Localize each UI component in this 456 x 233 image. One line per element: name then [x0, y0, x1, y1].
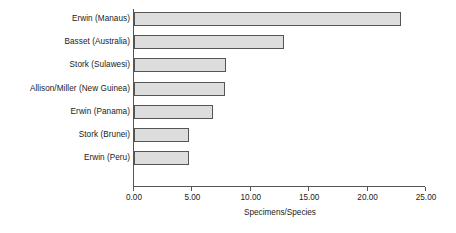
tick-label: 20.00 [345, 193, 391, 203]
tick-mark [250, 187, 251, 191]
bar [134, 35, 284, 49]
tick-label: 0.00 [111, 193, 157, 203]
bar [134, 58, 226, 72]
category-label: Erwin (Panama) [4, 107, 130, 117]
category-label: Stork (Sulawesi) [4, 60, 130, 70]
x-axis-title: Specimens/Species [134, 208, 426, 218]
bar [134, 82, 225, 96]
category-label: Stork (Brunei) [4, 130, 130, 140]
bar-chart: Erwin (Manaus)Basset (Australia)Stork (S… [0, 0, 456, 233]
plot-area [134, 8, 426, 188]
category-axis-labels: Erwin (Manaus)Basset (Australia)Stork (S… [0, 0, 130, 190]
tick-mark [133, 187, 134, 191]
bar [134, 12, 401, 26]
category-label: Basset (Australia) [4, 37, 130, 47]
category-label: Erwin (Peru) [4, 153, 130, 163]
tick-mark [308, 187, 309, 191]
x-axis-line [133, 186, 425, 187]
category-label: Erwin (Manaus) [4, 14, 130, 24]
category-label: Allison/Miller (New Guinea) [4, 84, 130, 94]
tick-mark [191, 187, 192, 191]
tick-label: 5.00 [169, 193, 215, 203]
bar [134, 105, 213, 119]
tick-mark [425, 187, 426, 191]
tick-mark [367, 187, 368, 191]
tick-label: 10.00 [228, 193, 274, 203]
bar [134, 151, 189, 165]
y-axis-line [133, 9, 134, 187]
bar [134, 128, 189, 142]
tick-label: 25.00 [403, 193, 449, 203]
tick-label: 15.00 [286, 193, 332, 203]
